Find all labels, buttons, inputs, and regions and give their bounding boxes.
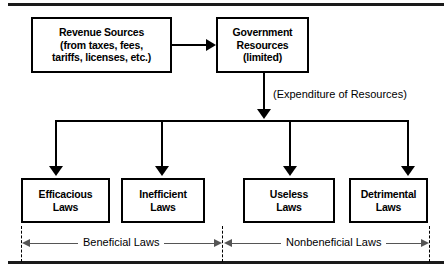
figure-bottom-rule [8, 261, 444, 264]
box-revenue-sources: Revenue Sources(from taxes, fees,tariffs… [31, 17, 172, 73]
figure-top-rule [8, 3, 444, 6]
connector-expenditure-stem [263, 73, 265, 111]
box-efficacious-laws-label: EfficaciousLaws [39, 188, 93, 213]
box-government-resources: GovernmentResources(limited) [216, 17, 309, 73]
drop-line-inefficient [161, 120, 163, 168]
drop-line-useless [289, 120, 291, 168]
box-government-resources-label: GovernmentResources(limited) [233, 26, 293, 63]
arrowhead-detrimental-icon [401, 166, 415, 176]
span-divider-right [429, 226, 430, 262]
box-detrimental-laws: DetrimentalLaws [349, 178, 428, 223]
arrowhead-useless-icon [283, 166, 297, 176]
arrowhead-beneficial-right-icon [214, 239, 222, 247]
arrowhead-nonbeneficial-left-icon [224, 239, 232, 247]
arrowhead-revenue-to-government-icon [206, 39, 216, 51]
arrowhead-efficacious-icon [49, 166, 63, 176]
span-label-beneficial: Beneficial Laws [78, 236, 164, 248]
box-inefficient-laws-label: InefficientLaws [139, 188, 186, 213]
drop-line-detrimental [407, 120, 409, 168]
box-revenue-sources-label: Revenue Sources(from taxes, fees,tariffs… [52, 26, 151, 63]
box-inefficient-laws: InefficientLaws [121, 178, 205, 223]
arrowhead-nonbeneficial-right-icon [421, 239, 429, 247]
diagram-canvas: Revenue Sources(from taxes, fees,tariffs… [0, 0, 446, 275]
box-efficacious-laws: EfficaciousLaws [21, 178, 110, 223]
box-detrimental-laws-label: DetrimentalLaws [361, 188, 417, 213]
distribution-bus-line [55, 120, 409, 122]
connector-revenue-to-government [172, 44, 208, 46]
arrowhead-expenditure-icon [257, 109, 271, 119]
span-label-nonbeneficial: Nonbeneficial Laws [281, 236, 386, 248]
expenditure-caption: (Expenditure of Resources) [273, 88, 407, 100]
box-useless-laws: UselessLaws [243, 178, 335, 223]
arrowhead-inefficient-icon [155, 166, 169, 176]
arrowhead-beneficial-left-icon [22, 239, 30, 247]
drop-line-efficacious [55, 120, 57, 168]
box-useless-laws-label: UselessLaws [270, 188, 308, 213]
span-divider-middle [222, 226, 223, 262]
